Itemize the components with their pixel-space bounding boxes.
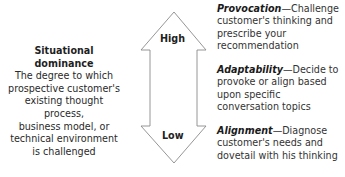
- item-name: Adaptability: [217, 64, 283, 75]
- item-dash: —: [283, 64, 293, 75]
- item-dash: —: [281, 3, 291, 14]
- adaptability-item: Adaptability—Decide to provoke or align …: [217, 64, 345, 114]
- item-name: Provocation: [217, 3, 281, 14]
- alignment-item: Alignment—Diagnose customer's needs and …: [217, 125, 345, 162]
- item-dash: —: [273, 125, 283, 136]
- low-label: Low: [162, 130, 184, 141]
- provocation-item: Provocation—Challenge customer's thinkin…: [217, 3, 345, 53]
- item-name: Alignment: [217, 125, 273, 136]
- high-label: High: [160, 33, 185, 44]
